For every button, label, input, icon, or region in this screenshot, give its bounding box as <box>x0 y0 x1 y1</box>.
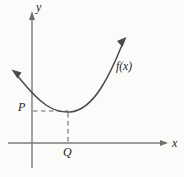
y-axis-arrowhead-icon <box>29 11 35 20</box>
x-axis-arrowhead-icon <box>160 140 168 146</box>
point-q-label: Q <box>63 146 72 158</box>
point-p-label: P <box>18 101 25 113</box>
graph-canvas <box>0 0 184 177</box>
y-axis-label: y <box>36 1 41 13</box>
function-graph-figure: y x P Q f(x) <box>0 0 184 177</box>
curve-left-arrowhead-icon <box>12 70 22 79</box>
curve-right-arrowhead-icon <box>117 37 127 47</box>
x-axis-label: x <box>172 137 177 149</box>
function-label: f(x) <box>116 61 132 73</box>
